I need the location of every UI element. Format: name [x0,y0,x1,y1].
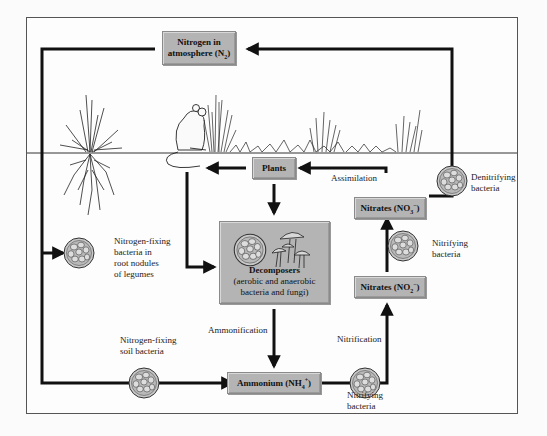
nitrites-label: Nitrates (NO [360,282,410,292]
diagram-graphics [0,0,547,436]
decomposers-illustration [220,225,331,275]
mouse-illustration [166,105,206,168]
label-nitrification: Nitrification [337,334,382,345]
label-nitrifying-bacteria-lower: Nitrifying bacteria [347,390,383,412]
node-ammonium: Ammonium (NH4+) [227,372,321,394]
root-nodules-line3: root nodules [114,258,171,269]
ammonium-label-wrap: Ammonium (NH4+) [237,378,311,389]
nitrifying-bacteria-upper-icon [388,231,418,261]
atmosphere-line2-wrap: atmosphere (N2) [168,48,231,59]
atmosphere-close: ) [227,48,230,58]
nitrifying-lower-line1: Nitrifying [347,390,383,401]
decomposers-desc-2: bacteria and fungi) [241,287,309,298]
nitrites-label-wrap: Nitrates (NO2−) [360,282,419,293]
soil-bacteria-line2: soil bacteria [120,346,177,357]
plants-label: Plants [262,163,286,174]
atmosphere-line1: Nitrogen in [177,37,221,48]
denitrifying-line1: Denitrifying [471,172,516,183]
grass-illustration [204,95,422,152]
nitrates-sub: 3 [410,208,413,214]
decomposer-bacteria-icon [234,234,266,266]
nitrites-sub: 2 [410,287,413,293]
legume-plant-illustration [60,95,122,215]
node-nitrates: Nitrates (NO3−) [354,197,426,219]
node-atmosphere: Nitrogen in atmosphere (N2) [162,31,236,65]
soil-bacteria-icon [129,368,159,398]
soil-bacteria-line1: Nitrogen-fixing [120,335,177,346]
ammonium-sub: 4 [302,383,305,389]
atmosphere-line2: atmosphere (N [168,48,225,58]
nitrites-close: ) [417,282,420,292]
root-nodule-bacteria-icon [64,238,94,268]
denitrifying-bacteria-icon [437,166,467,196]
label-assimilation: Assimilation [331,173,377,184]
root-nodules-line2: bacteria in [114,247,171,258]
nitrifying-lower-line2: bacteria [347,401,383,412]
denitrifying-line2: bacteria [471,183,516,194]
ammonium-close: ) [308,378,311,388]
root-nodules-line4: of legumes [114,269,171,280]
decomposers-desc-1: (aerobic and anaerobic [234,276,316,287]
nitrates-close: ) [417,203,420,213]
nitrates-label: Nitrates (NO [360,203,410,213]
label-nitrifying-bacteria-upper: Nitrifying bacteria [432,238,468,260]
nitrogen-cycle-diagram: Nitrogen in atmosphere (N2) Plants Decom… [0,0,547,436]
root-nodules-line1: Nitrogen-fixing [114,236,171,247]
nitrifying-upper-line1: Nitrifying [432,238,468,249]
node-decomposers: Decomposers (aerobic and anaerobic bacte… [219,221,330,304]
nitrates-label-wrap: Nitrates (NO3−) [360,203,419,214]
ammonium-label: Ammonium (NH [237,378,302,388]
nitrifying-upper-line2: bacteria [432,249,468,260]
node-nitrites: Nitrates (NO2−) [354,276,426,298]
label-denitrifying-bacteria: Denitrifying bacteria [471,172,516,194]
node-plants: Plants [252,157,296,179]
arrow-atmosphere-to-soil [42,49,232,383]
label-root-nodule-bacteria: Nitrogen-fixing bacteria in root nodules… [114,236,171,280]
mushroom-icon [272,232,310,268]
label-soil-bacteria: Nitrogen-fixing soil bacteria [120,335,177,357]
arrow-animals-to-decomposers [187,172,214,267]
label-ammonification: Ammonification [208,325,268,336]
